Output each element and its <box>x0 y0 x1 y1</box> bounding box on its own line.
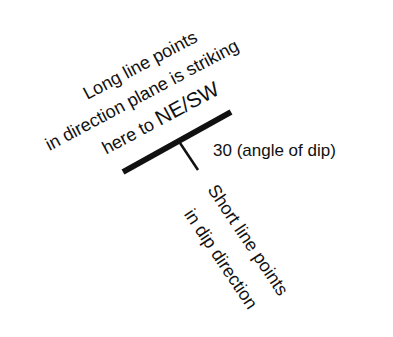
strike-dip-diagram: Long line points in direction plane is s… <box>0 0 393 337</box>
dip-angle-label: 30 (angle of dip) <box>213 142 336 159</box>
dip-tick <box>180 143 198 170</box>
strike-dip-symbol <box>0 0 393 337</box>
